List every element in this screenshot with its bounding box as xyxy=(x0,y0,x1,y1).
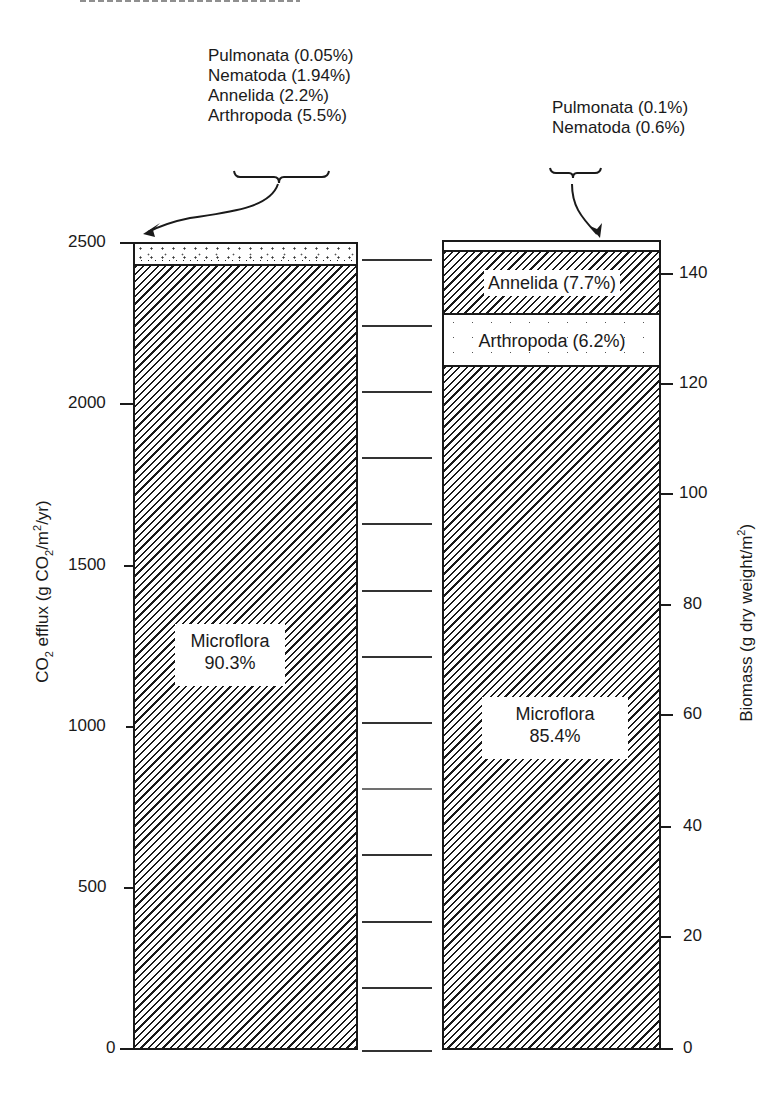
label-microflora-left: Microflora 90.3% xyxy=(175,624,285,686)
label-annelida-right: Annelida (7.7%) xyxy=(484,270,620,296)
left-axis-title: CO2 efflux (g CO2/m2/yr) xyxy=(31,477,54,707)
right-axis-title: Biomass (g dry weight/m2) xyxy=(735,508,757,738)
segment-fauna xyxy=(135,244,356,266)
tick-40: 40 xyxy=(683,816,702,836)
label-microflora-right: Microflora 85.4% xyxy=(482,697,628,759)
brace-arrow-icons xyxy=(0,0,776,260)
tick-20: 20 xyxy=(683,926,702,946)
label-arthropoda-right: Arthropoda (6.2%) xyxy=(462,328,642,354)
tick-120: 120 xyxy=(679,373,707,393)
tick-2000: 2000 xyxy=(68,393,106,413)
tick-100: 100 xyxy=(679,483,707,503)
tick-80: 80 xyxy=(683,594,702,614)
segment-pulmonata-nematoda xyxy=(444,242,659,252)
tick-1000: 1000 xyxy=(68,716,106,736)
tick-0-right: 0 xyxy=(683,1038,692,1058)
tick-1500: 1500 xyxy=(68,555,106,575)
co2-efflux-bar: Microflora 90.3% xyxy=(133,242,358,1050)
tick-2500: 2500 xyxy=(68,232,106,252)
tick-0: 0 xyxy=(106,1038,115,1058)
biomass-bar: Annelida (7.7%) Arthropoda (6.2%) Microf… xyxy=(442,240,661,1050)
tick-500: 500 xyxy=(78,877,106,897)
tick-140: 140 xyxy=(679,263,707,283)
tick-60: 60 xyxy=(683,704,702,724)
arrowhead-icon xyxy=(143,223,160,237)
